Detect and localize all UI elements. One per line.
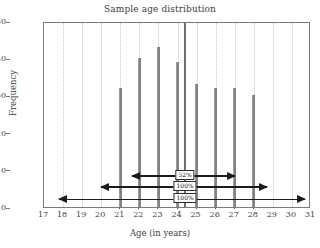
x-tick-label-21: 21 [109,210,129,219]
y-tick-label-0: 0 [0,203,6,212]
x-tick-label-19: 19 [71,210,91,219]
y-tick-mark [6,133,10,134]
x-tick-label-27: 27 [224,210,244,219]
arrowhead-left-icon [58,195,67,203]
arrowhead-right-icon [259,183,268,191]
y-tick-label-30: 30 [0,91,6,100]
gridline-x-30 [292,23,293,207]
arrowhead-right-icon [297,195,306,203]
interval-percent-label: 52% [175,170,194,180]
interval-arrow: 100% [59,195,305,204]
y-tick-mark [6,170,10,171]
x-tick-label-29: 29 [262,210,282,219]
interval-arrow: 100% [101,183,267,192]
x-tick-label-17: 17 [33,210,53,219]
y-tick-mark [6,59,10,60]
x-tick-label-26: 26 [205,210,225,219]
x-tick-label-20: 20 [90,210,110,219]
arrowhead-right-icon [227,172,236,180]
arrowhead-left-icon [131,172,140,180]
gridline-x-29 [273,23,274,207]
x-tick-label-28: 28 [243,210,263,219]
arrowhead-left-icon [100,183,109,191]
x-tick-label-25: 25 [186,210,206,219]
gridline-x-19 [82,23,83,207]
y-tick-label-50: 50 [0,17,6,26]
interval-percent-label: 100% [174,181,197,191]
y-tick-label-10: 10 [0,166,6,175]
chart-title: Sample age distribution [0,4,320,14]
y-tick-label-20: 20 [0,129,6,138]
y-tick-mark [6,208,10,209]
x-axis-label: Age (in years) [0,228,320,238]
gridline-x-20 [101,23,102,207]
x-tick-label-23: 23 [147,210,167,219]
interval-arrow: 52% [132,172,235,181]
plot-inner: 52%100%100% [44,23,309,207]
y-axis-label: Frequency [8,18,18,168]
x-tick-label-30: 30 [281,210,301,219]
y-tick-mark [6,22,10,23]
plot-area: 52%100%100% [43,22,310,208]
x-tick-label-18: 18 [52,210,72,219]
y-tick-label-40: 40 [0,54,6,63]
x-tick-label-24: 24 [167,210,187,219]
interval-percent-label: 100% [174,193,197,203]
x-tick-label-31: 31 [300,210,320,219]
gridline-x-18 [63,23,64,207]
y-tick-mark [6,96,10,97]
chart-container: Sample age distribution Frequency Age (i… [0,0,320,248]
x-tick-label-22: 22 [128,210,148,219]
